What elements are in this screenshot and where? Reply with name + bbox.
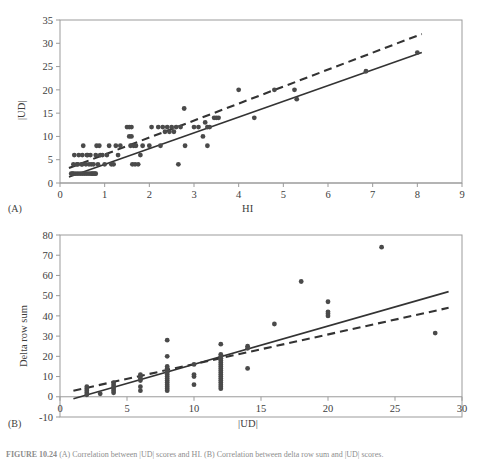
svg-text:10: 10 [43, 131, 54, 142]
svg-text:10: 10 [43, 371, 54, 382]
svg-text:50: 50 [43, 290, 54, 301]
svg-text:3: 3 [191, 189, 196, 200]
svg-text:60: 60 [43, 270, 54, 281]
svg-text:2: 2 [147, 189, 152, 200]
svg-text:25: 25 [390, 403, 401, 414]
svg-text:7: 7 [370, 189, 375, 200]
svg-text:0: 0 [48, 391, 53, 402]
svg-text:1: 1 [102, 189, 107, 200]
svg-text:0: 0 [57, 403, 62, 414]
svg-text:0: 0 [48, 178, 53, 189]
svg-text:9: 9 [459, 189, 464, 200]
svg-text:15: 15 [256, 403, 267, 414]
svg-text:8: 8 [415, 189, 420, 200]
panel-a-plot: 012345678905101520253035 [0, 0, 486, 222]
figure-caption: FIGURE 10.24 (A) Correlation between |UD… [6, 450, 480, 459]
svg-text:5: 5 [124, 403, 129, 414]
panel-b-y-axis-title: Delta row sum [18, 305, 29, 367]
caption-prefix: FIGURE 10.24 [6, 450, 57, 459]
svg-text:20: 20 [43, 85, 54, 96]
svg-text:30: 30 [43, 331, 54, 342]
svg-text:5: 5 [281, 189, 286, 200]
panel-b-label: (B) [8, 418, 21, 429]
svg-text:30: 30 [457, 403, 468, 414]
svg-text:15: 15 [43, 108, 54, 119]
caption-text: (A) Correlation between |UD| scores and … [59, 450, 383, 459]
svg-text:40: 40 [43, 311, 54, 322]
figure-container: 012345678905101520253035 |UD| HI (A) 051… [0, 0, 486, 459]
panel-b-plot: 051015202530-1001020304050607080 [0, 222, 486, 437]
svg-text:20: 20 [323, 403, 334, 414]
svg-text:80: 80 [43, 230, 54, 241]
panel-a-x-axis-title: HI [242, 203, 253, 214]
svg-text:4: 4 [236, 189, 242, 200]
panel-b: 051015202530-1001020304050607080 Delta r… [0, 222, 486, 437]
svg-text:-10: -10 [39, 412, 53, 423]
panel-a-label: (A) [8, 203, 22, 214]
svg-text:20: 20 [43, 351, 54, 362]
svg-text:5: 5 [48, 154, 53, 165]
svg-text:30: 30 [43, 38, 54, 49]
svg-text:70: 70 [43, 250, 54, 261]
panel-a-y-axis-title: |UD| [16, 101, 27, 120]
svg-text:10: 10 [189, 403, 200, 414]
panel-a: 012345678905101520253035 |UD| HI (A) [0, 0, 486, 222]
svg-text:35: 35 [43, 15, 54, 26]
svg-text:6: 6 [325, 189, 330, 200]
panel-b-x-axis-title: |UD| [238, 418, 258, 429]
svg-text:0: 0 [57, 189, 62, 200]
svg-text:25: 25 [43, 61, 54, 72]
